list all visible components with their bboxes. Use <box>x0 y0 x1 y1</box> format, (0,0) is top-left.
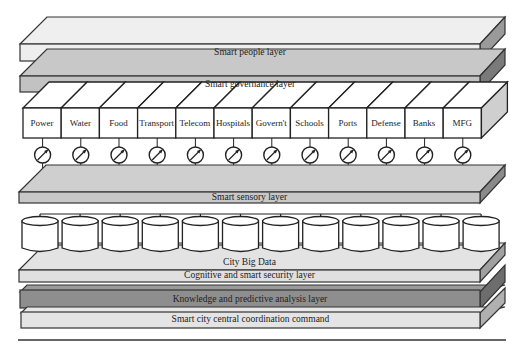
sector-label: Food <box>99 119 137 128</box>
sector-label: Banks <box>405 119 443 128</box>
label-cognitive-security-layer: Cognitive and smart security layer <box>19 271 480 281</box>
label-smart-governance-layer: Smart governance layer <box>20 80 480 90</box>
label-smart-sensory-layer: Smart sensory layer <box>19 193 480 203</box>
sector-label: Defense <box>367 119 405 128</box>
sector-label: Ports <box>329 119 367 128</box>
label-smart-people-layer: Smart people layer <box>20 48 480 58</box>
sector-label: Hospitals <box>214 119 252 128</box>
sensor-gauges <box>35 138 471 169</box>
sector-label: Power <box>23 119 61 128</box>
sector-label: Telecom <box>176 119 214 128</box>
label-knowledge-predictive-layer: Knowledge and predictive analysis layer <box>20 295 480 305</box>
sector-label: Schools <box>290 119 328 128</box>
sector-boxes <box>23 82 507 138</box>
sector-label: Water <box>61 119 99 128</box>
sector-label: Govern't <box>252 119 290 128</box>
label-city-big-data: City Big Data <box>19 258 480 268</box>
sector-label: MFG <box>443 119 481 128</box>
sector-label: Transport <box>138 119 176 128</box>
label-central-coordination-command: Smart city central coordination command <box>21 315 480 325</box>
